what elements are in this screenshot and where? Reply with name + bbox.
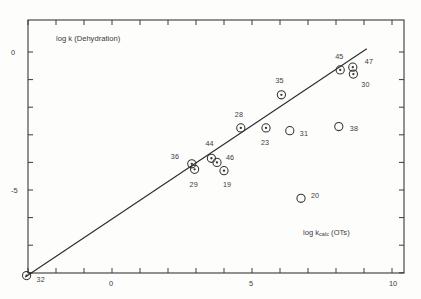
- data-point-center-32: [25, 274, 27, 276]
- data-point-center-23: [265, 127, 267, 129]
- data-point-center-44: [210, 157, 212, 159]
- point-label-44: 44: [205, 140, 213, 147]
- x-tick-label: 5: [249, 279, 253, 288]
- point-label-31: 31: [300, 130, 308, 137]
- point-label-35: 35: [275, 77, 283, 84]
- plot-canvas: [0, 0, 421, 299]
- y-tick-label: -5: [11, 186, 18, 195]
- point-label-29: 29: [190, 181, 198, 188]
- point-label-32: 32: [37, 276, 45, 283]
- point-label-36: 36: [171, 153, 179, 160]
- x-axis-title-tail: (OTs): [329, 228, 350, 237]
- point-label-23: 23: [261, 139, 269, 146]
- data-point-center-30: [352, 73, 354, 75]
- data-point-31: [286, 127, 294, 135]
- data-point-center-29: [193, 168, 195, 170]
- point-label-20: 20: [311, 192, 319, 199]
- point-label-45: 45: [335, 53, 343, 60]
- point-label-30: 30: [361, 81, 369, 88]
- data-point-center-47: [352, 66, 354, 68]
- data-point-center-19: [223, 170, 225, 172]
- data-points: [23, 63, 358, 280]
- x-tick-label: 10: [389, 279, 397, 288]
- data-point-center-36: [191, 163, 193, 165]
- x-tick-label: 0: [109, 279, 113, 288]
- data-point-center-46: [216, 161, 218, 163]
- point-label-38: 38: [350, 125, 358, 132]
- data-point-20: [297, 194, 305, 202]
- scatter-plot-figure: log k (Dehydration) log kcalc (OTs) 0510…: [0, 0, 421, 299]
- x-axis-title-main: log k: [303, 228, 319, 237]
- point-label-28: 28: [235, 111, 243, 118]
- data-point-center-35: [280, 94, 282, 96]
- point-label-46: 46: [226, 154, 234, 161]
- data-point-38: [335, 122, 343, 130]
- point-label-47: 47: [365, 58, 373, 65]
- data-point-center-28: [240, 127, 242, 129]
- y-axis-title: log k (Dehydration): [56, 34, 120, 43]
- data-point-center-45: [339, 69, 341, 71]
- x-axis-title-sub: calc: [319, 231, 329, 237]
- x-axis-title: log kcalc (OTs): [303, 228, 350, 237]
- y-tick-label: 0: [11, 48, 15, 57]
- point-label-19: 19: [223, 181, 231, 188]
